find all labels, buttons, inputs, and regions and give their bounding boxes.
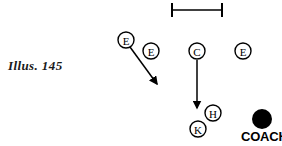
- player-marker-e2[interactable]: E: [143, 43, 159, 59]
- coach-label: COACH: [241, 129, 282, 144]
- player-label-e3: E: [240, 46, 247, 58]
- player-label-e1: E: [123, 35, 130, 47]
- player-marker-c1[interactable]: C: [189, 43, 205, 59]
- figure-caption: Illus. 145: [8, 58, 63, 74]
- player-marker-e1[interactable]: E: [118, 32, 134, 48]
- player-marker-k1[interactable]: K: [190, 121, 206, 137]
- player-label-c1: C: [193, 46, 200, 58]
- player-marker-e3[interactable]: E: [235, 43, 251, 59]
- movement-arrows: [130, 47, 197, 108]
- player-marker-h1[interactable]: H: [205, 105, 221, 121]
- play-diagram-canvas: E E C E H K: [0, 0, 282, 146]
- player-label-k1: K: [194, 124, 202, 136]
- dimension-bar: [172, 3, 222, 17]
- player-label-h1: H: [209, 108, 217, 120]
- player-label-e2: E: [148, 46, 155, 58]
- coach-marker-dot[interactable]: [252, 109, 272, 129]
- player-markers: E E C E H K: [118, 32, 251, 137]
